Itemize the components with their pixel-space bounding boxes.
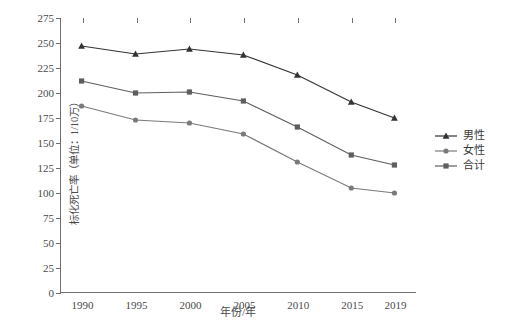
y-axis-tick-mark [56, 193, 61, 194]
y-axis-tick-mark [56, 293, 61, 294]
legend-item-男性[interactable]: 男性 [434, 128, 485, 143]
x-axis-tick-mark [190, 18, 191, 23]
x-axis-tick-mark [395, 18, 396, 23]
y-axis-tick-mark [56, 168, 61, 169]
plot-area: 0255075100125150175200225250275199019952… [60, 18, 416, 293]
y-axis-tick-mark [56, 43, 61, 44]
legend-marker-circle-icon [434, 145, 458, 157]
x-axis-tick-mark [83, 18, 84, 23]
y-axis-tick-mark [56, 18, 61, 19]
y-axis-tick-mark [56, 268, 61, 269]
data-point-marker [443, 163, 448, 168]
legend-label: 女性 [463, 145, 485, 156]
line-chart: 0255075100125150175200225250275199019952… [0, 0, 516, 322]
y-axis-title: 标化死亡率（单位：1/10万） [66, 97, 81, 226]
x-axis-tick-mark [137, 18, 138, 23]
legend-marker-triangle-icon [434, 130, 458, 142]
x-axis-tick-mark [298, 18, 299, 23]
data-point-marker [443, 148, 448, 153]
y-axis-tick-mark [56, 143, 61, 144]
chart-legend: 男性女性合计 [434, 128, 485, 173]
x-axis-title: 年份/年 [60, 303, 416, 319]
legend-label: 男性 [463, 130, 485, 141]
x-axis-tick-mark [352, 18, 353, 23]
y-axis-tick-mark [56, 118, 61, 119]
y-axis-tick-mark [56, 93, 61, 94]
legend-item-女性[interactable]: 女性 [434, 143, 485, 158]
legend-item-合计[interactable]: 合计 [434, 158, 485, 173]
legend-label: 合计 [463, 160, 485, 171]
y-axis-tick-mark [56, 218, 61, 219]
y-axis-tick-mark [56, 243, 61, 244]
legend-marker-square-icon [434, 160, 458, 172]
x-axis-tick-mark [244, 18, 245, 23]
y-axis-tick-mark [56, 68, 61, 69]
